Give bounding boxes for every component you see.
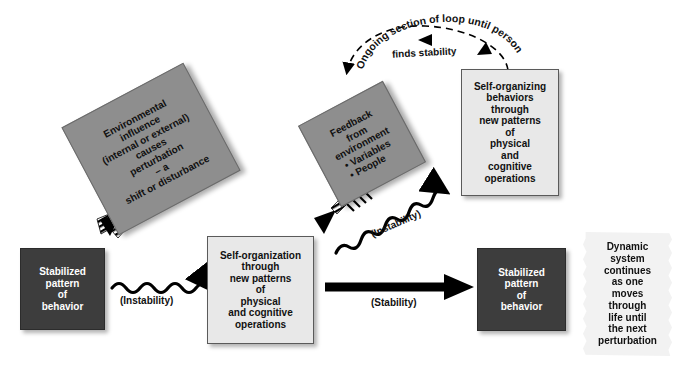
dynamic-system-note: Dynamic system continues as one moves th… xyxy=(583,232,672,356)
diagram-canvas: Ongoing section of loop until person Env… xyxy=(0,0,683,368)
stability-label: (Stability) xyxy=(371,297,417,308)
stabilized-pattern-right-box[interactable]: Stabilized pattern of behavior xyxy=(477,248,566,331)
feedback-text: Feedback from environment Variables Peop… xyxy=(322,105,402,184)
arc-caption-line2: finds stability xyxy=(392,45,457,59)
self-organization-box[interactable]: Self-organization through new patterns o… xyxy=(207,236,314,344)
self-organization-text: Self-organization through new patterns o… xyxy=(220,250,301,331)
self-organizing-behaviors-box[interactable]: Self-organizing behaviors through new pa… xyxy=(461,69,559,196)
squiggle-arrow-instability-1 xyxy=(112,284,210,293)
environmental-influence-text: Environmental influence (internal or ext… xyxy=(89,91,212,207)
dynamic-system-note-text: Dynamic system continues as one moves th… xyxy=(598,241,657,347)
arc-caption-line1: Ongoing section of loop until person xyxy=(353,12,525,71)
feedback-box[interactable]: Feedback from environment Variables Peop… xyxy=(298,81,426,207)
self-organizing-behaviors-text: Self-organizing behaviors through new pa… xyxy=(474,81,546,185)
stabilized-pattern-left-text: Stabilized pattern of behavior xyxy=(39,266,86,312)
stabilized-pattern-right-text: Stabilized pattern of behavior xyxy=(498,267,545,313)
environmental-influence-box[interactable]: Environmental influence (internal or ext… xyxy=(61,63,240,236)
instability-label-1: (Instability) xyxy=(120,295,173,306)
instability-label-2: (Instability) xyxy=(369,208,422,240)
stabilized-pattern-left-box[interactable]: Stabilized pattern of behavior xyxy=(20,248,105,330)
